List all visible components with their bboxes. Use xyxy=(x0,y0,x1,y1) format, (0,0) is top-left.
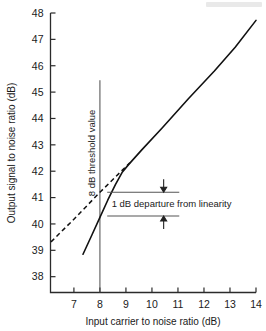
axis-lines xyxy=(51,13,257,293)
x-tick-label: 11 xyxy=(173,298,184,310)
measured-output-snr-curve xyxy=(83,20,256,254)
y-tick-label: 38 xyxy=(32,270,44,282)
y-tick-label: 39 xyxy=(32,244,44,256)
x-tick-label: 10 xyxy=(146,298,158,310)
y-tick-label: 46 xyxy=(32,60,44,72)
x-tick-label: 9 xyxy=(123,298,129,310)
scan-artifact xyxy=(206,2,262,7)
y-tick-label: 44 xyxy=(32,112,44,124)
y-axis-ticks xyxy=(51,13,56,277)
figure-container: 3839404142434445464748 7891011121314 1 d… xyxy=(0,0,266,331)
x-tick-label: 7 xyxy=(71,298,77,310)
y-tick-label: 40 xyxy=(32,218,44,230)
y-tick-label: 45 xyxy=(32,86,44,98)
threshold-label: 8 dB threshold value xyxy=(86,110,97,197)
x-tick-label: 14 xyxy=(250,298,262,310)
y-tick-label: 43 xyxy=(32,139,44,151)
y-tick-label: 41 xyxy=(32,191,44,203)
departure-label: 1 dB departure from linearity xyxy=(112,198,232,209)
y-axis-tick-labels: 3839404142434445464748 xyxy=(32,7,44,283)
x-tick-label: 12 xyxy=(198,298,210,310)
y-tick-label: 42 xyxy=(32,165,44,177)
departure-annotation: 1 dB departure from linearity xyxy=(107,179,232,229)
signal-to-noise-transfer-chart: 3839404142434445464748 7891011121314 1 d… xyxy=(0,0,266,331)
x-axis-tick-labels: 7891011121314 xyxy=(71,298,262,310)
x-tick-label: 8 xyxy=(97,298,103,310)
y-tick-label: 48 xyxy=(32,7,44,19)
axes xyxy=(51,13,257,293)
x-axis-title: Input carrier to noise ratio (dB) xyxy=(85,316,220,327)
x-tick-label: 13 xyxy=(224,298,236,310)
y-axis-title: Output signal to noise ratio (dB) xyxy=(6,83,17,224)
y-tick-label: 47 xyxy=(32,33,44,45)
departure-up-arrow xyxy=(161,216,167,229)
x-axis-ticks xyxy=(74,288,256,293)
departure-down-arrow xyxy=(161,179,167,192)
